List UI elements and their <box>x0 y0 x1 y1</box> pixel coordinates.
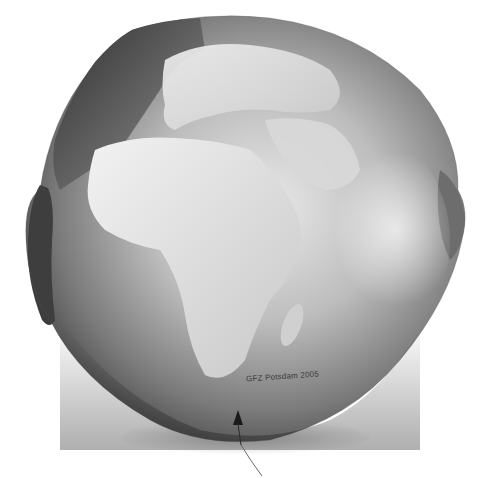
indian-ocean-highlight <box>270 130 450 350</box>
geoid-globe <box>0 0 488 478</box>
geoid-image: GFZ Potsdam 2005 <box>0 0 488 478</box>
